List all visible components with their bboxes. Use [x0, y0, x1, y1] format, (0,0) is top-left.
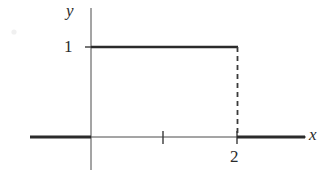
x-tick-label-2: 2 [230, 148, 239, 165]
y-tick-label-1: 1 [64, 38, 73, 55]
y-axis-label: y [66, 2, 74, 19]
dust-speck-icon [11, 29, 16, 34]
x-axis-label: x [309, 126, 317, 143]
figure-container: y x 1 2 [0, 0, 334, 181]
plot-canvas [0, 0, 334, 181]
